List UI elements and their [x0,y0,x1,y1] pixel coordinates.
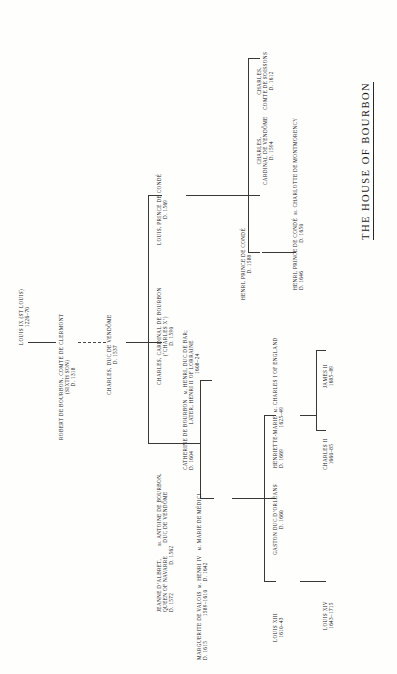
node-catherine-de-bourbon: CATHERINE DE BOURBON m. HENRI, DUC DE BA… [182,330,200,470]
chart-sheet: THE HOUSE OF BOURBON LOUIS IX (ST LOUIS)… [0,0,397,674]
spine-conde-children [248,58,249,252]
node-louis-prince-de-conde: LOUIS, PRINCE DE CONDÉ D. 1569 [156,174,168,245]
node-charles-comte-de-soissons: CHARLES, COMTE DE SOISSONS D. 1612 [256,52,274,110]
node-henri-prince-de-conde-1646: HENRI, PRINCE DE CONDÉ m. CHARLOTTE DE M… [292,118,304,290]
node-louis-xiv: LOUIS XIV 1643–1715 [322,601,334,630]
node-henri-prince-de-conde-1588: HENRI, PRINCE DE CONDÉ D. 1588 [240,228,252,300]
node-gaston-duc-dorleans: GASTON DUC D’ORLÉANS D. 1660 [272,484,284,555]
node-james-ii: JAMES II 1685–89 [322,364,334,388]
node-henri-iv: MARGUERITE DE VALOIS m. HENRI IV m. MARI… [196,493,208,660]
page-title: THE HOUSE OF BOURBON [360,82,371,240]
branch-charles-ii [316,430,326,431]
spine-vendome-children [148,195,149,443]
node-charles-cardinal-de-vendome: CHARLES, CARDINAL DE VENDÔME D. 1594 [256,116,274,185]
connector-dashed-elision [78,342,106,343]
connector-vendome-spine [126,342,148,343]
connector-conde-to-spine [186,195,248,196]
branch-louis-xiii [264,581,276,582]
node-robert-de-bourbon: ROBERT DE BOURBON, COMTE DE CLERMONT (SI… [58,314,76,440]
node-charles-ii: CHARLES II 1660–85 [322,438,334,470]
node-henriette-marie: HENRIETTE-MARIE m. CHARLES I OF ENGLAND … [272,337,284,468]
connector-conde1588-conde1646 [262,252,296,253]
connector-louisxiii-louisxiv [300,581,326,582]
spine-henriette-children [316,350,317,430]
connector-henriiv-to-spine [232,498,264,499]
branch-charles-cardinal-vendome [248,195,260,196]
node-antoine-de-bourbon: JEANNE D’ALBRET, m. ANTOINE DE BOURBON, … [156,473,174,612]
branch-james-ii [316,350,326,351]
node-charles-cardinal-de-bourbon: CHARLES, CARDINAL DE BOURBON (‘CHARLES X… [156,287,174,385]
node-louis-xiii: LOUIS XIII 1610–43 [272,613,284,642]
connector-louisix-robert [28,342,56,343]
branch-catherine-de-bourbon [200,380,212,381]
node-charles-duc-de-vendome: CHARLES, DUC DE VENDÔME D. 1537 [106,314,118,395]
branch-antoine-de-bourbon [148,443,174,444]
node-louis-ix: LOUIS IX (ST LOUIS) 1226–70 [18,289,30,345]
connector-henriette-to-spine [300,415,316,416]
